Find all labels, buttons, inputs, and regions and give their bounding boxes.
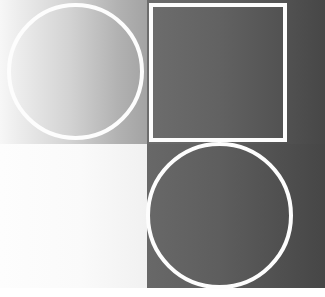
panel-top-right [147, 0, 325, 144]
panel-bottom-left [0, 144, 147, 288]
panel-bottom-right [147, 144, 325, 288]
artwork-canvas [0, 0, 325, 297]
panel-top-left [0, 0, 147, 144]
